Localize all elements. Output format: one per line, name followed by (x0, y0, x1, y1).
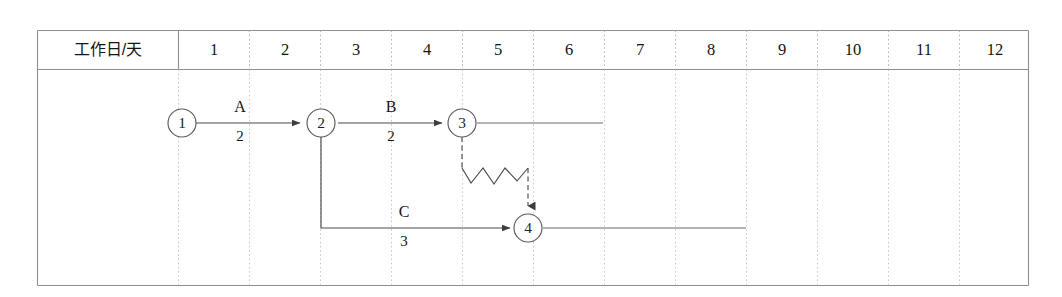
node-1-label: 1 (178, 114, 186, 131)
activity-c-duration: 3 (400, 233, 408, 249)
axis-row-label: 工作日/天 (74, 41, 142, 58)
node-2-label: 2 (317, 114, 325, 131)
tail-extensions (477, 123, 746, 228)
column-header-3: 3 (352, 40, 360, 59)
network-diagram-page: 工作日/天 1 2 3 4 5 6 7 8 9 10 11 12 A 2 (0, 0, 1062, 297)
column-header-4: 4 (423, 40, 431, 59)
activity-arrow-c: C 3 (321, 137, 510, 249)
column-header-11: 11 (916, 40, 932, 59)
event-node-2[interactable]: 2 (307, 109, 335, 137)
activity-b-name: B (386, 98, 397, 115)
column-header-1: 1 (210, 40, 218, 59)
body-gridlines (179, 70, 960, 286)
activity-c-name: C (399, 203, 410, 220)
column-header-10: 10 (845, 40, 862, 59)
column-header-6: 6 (565, 40, 573, 59)
node-3-label: 3 (458, 114, 466, 131)
column-header-9: 9 (778, 40, 786, 59)
event-node-1[interactable]: 1 (168, 109, 196, 137)
event-node-3[interactable]: 3 (448, 109, 476, 137)
float-zigzag-segment (462, 168, 528, 184)
node-4-label: 4 (524, 219, 532, 236)
time-scaled-network-diagram: 工作日/天 1 2 3 4 5 6 7 8 9 10 11 12 A 2 (0, 0, 1062, 297)
column-header-2: 2 (281, 40, 289, 59)
activity-a-duration: 2 (236, 128, 244, 144)
activity-c-line (321, 137, 510, 228)
activity-arrow-b: B 2 (338, 98, 442, 144)
column-header-8: 8 (707, 40, 715, 59)
column-header-12: 12 (987, 40, 1004, 59)
column-header-7: 7 (636, 40, 644, 59)
event-node-4[interactable]: 4 (514, 214, 542, 242)
column-header-5: 5 (494, 40, 502, 59)
activity-arrow-a: A 2 (196, 98, 300, 144)
activity-b-duration: 2 (387, 128, 395, 144)
float-slack-link (462, 137, 528, 206)
activity-a-name: A (234, 98, 246, 115)
